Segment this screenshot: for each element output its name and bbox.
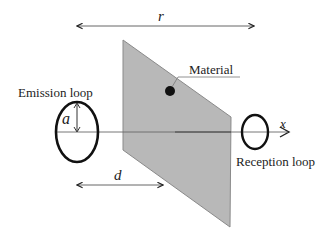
r-label: r (158, 8, 164, 24)
material-label: Material (189, 62, 233, 77)
diagram-canvas: r x Material a Emission loop Reception l… (0, 0, 324, 240)
radius-a-label: a (62, 110, 70, 127)
d-label: d (114, 167, 122, 183)
reception-loop-label: Reception loop (236, 154, 315, 169)
emission-loop-label: Emission loop (18, 85, 93, 100)
x-axis-label: x (279, 116, 286, 131)
material-dot (165, 86, 175, 96)
